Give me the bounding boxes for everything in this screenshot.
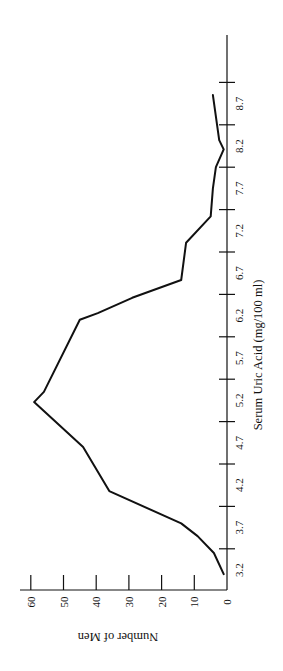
y-tick-label: 0 bbox=[221, 599, 233, 605]
x-tick-label: 7.2 bbox=[233, 224, 245, 238]
y-tick-label: 50 bbox=[58, 596, 70, 608]
x-tick-label: 6.7 bbox=[233, 266, 245, 280]
y-tick-label: 10 bbox=[188, 596, 200, 608]
y-tick-label: 60 bbox=[25, 596, 37, 608]
y-axis-ticks bbox=[31, 575, 195, 590]
x-tick-label: 7.7 bbox=[233, 181, 245, 195]
axes bbox=[20, 35, 227, 590]
x-tick-label: 4.2 bbox=[233, 478, 245, 492]
x-tick-label: 8.7 bbox=[233, 96, 245, 110]
y-axis-title: Number of Men bbox=[77, 630, 158, 644]
y-tick-label: 20 bbox=[156, 596, 168, 608]
data-line bbox=[34, 95, 224, 574]
y-tick-label: 30 bbox=[123, 596, 135, 608]
y-tick-label: 40 bbox=[90, 596, 102, 608]
x-tick-label: 8.2 bbox=[233, 139, 245, 153]
x-tick-label: 5.2 bbox=[233, 394, 245, 408]
y-axis-tick-labels: 0102030405060 bbox=[25, 596, 233, 608]
x-tick-label: 3.7 bbox=[233, 520, 245, 534]
x-tick-label: 6.2 bbox=[233, 309, 245, 323]
x-axis-title: Serum Uric Acid (mg/100 ml) bbox=[251, 280, 265, 431]
x-tick-label: 3.2 bbox=[233, 563, 245, 577]
x-tick-label: 5.7 bbox=[233, 351, 245, 365]
x-tick-label: 4.7 bbox=[233, 435, 245, 449]
uric-acid-line-chart: 3.23.74.24.75.25.76.26.77.27.78.28.7 010… bbox=[0, 0, 283, 671]
